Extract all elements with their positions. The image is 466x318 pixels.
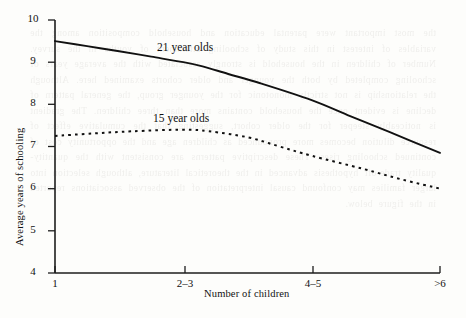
series-annotation-21-year-olds: 21 year olds: [157, 41, 213, 53]
axes: [55, 20, 440, 273]
series-line-15-year-olds: [55, 130, 440, 189]
series-line-21-year-olds: [55, 41, 440, 153]
series-annotation-15-year-olds: 15 year olds: [153, 112, 209, 124]
x-tick-label-1: 1: [35, 277, 75, 289]
x-tick-label-2-3: 2–3: [165, 277, 205, 289]
y-tick-label-6: 6: [22, 180, 44, 192]
y-tick-label-8: 8: [22, 96, 44, 108]
x-tick-label-gt6: >6: [420, 277, 460, 289]
y-axis-ticks: [48, 20, 55, 273]
y-tick-label-4: 4: [22, 265, 44, 277]
chart-page: the most important were parental educati…: [0, 0, 466, 318]
line-chart: [0, 0, 466, 318]
x-tick-label-4-5: 4–5: [293, 277, 333, 289]
x-axis-ticks: [55, 266, 440, 273]
x-axis-title: Number of children: [204, 288, 290, 299]
y-tick-label-9: 9: [22, 54, 44, 66]
y-tick-label-10: 10: [22, 12, 44, 24]
y-tick-label-7: 7: [22, 138, 44, 150]
y-tick-label-5: 5: [22, 223, 44, 235]
